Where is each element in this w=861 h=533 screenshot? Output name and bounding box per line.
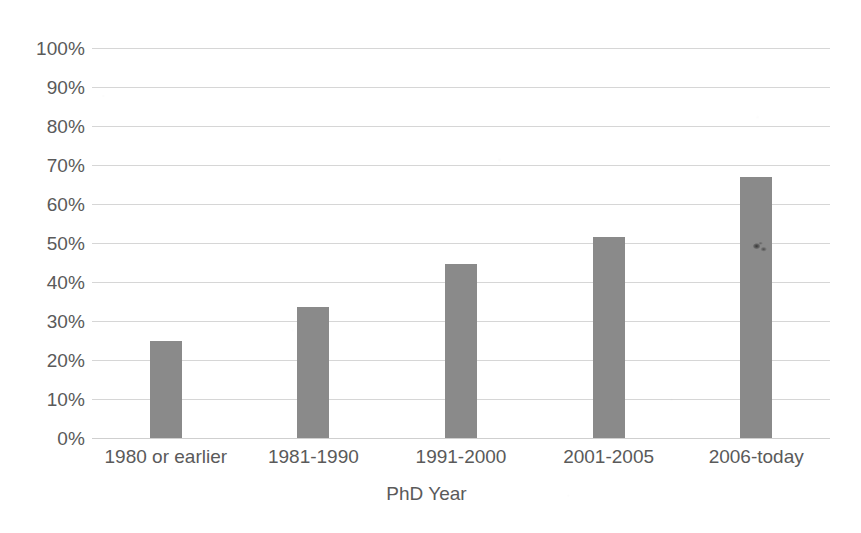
- bar: [593, 237, 625, 438]
- bar: [445, 264, 477, 438]
- x-axis-tick-label: 1980 or earlier: [105, 446, 228, 469]
- x-axis-title: PhD Year: [0, 483, 861, 506]
- x-axis-title-label: PhD Year: [386, 483, 466, 506]
- axis-baseline: [92, 438, 830, 439]
- y-axis-tick-label: 80%: [0, 117, 85, 136]
- x-axis-tick-labels: 1980 or earlier1981-19901991-20002001-20…: [0, 446, 861, 474]
- bars-layer: [92, 48, 830, 438]
- x-axis-tick-label: 1991-2000: [416, 446, 507, 469]
- bar: [740, 177, 772, 438]
- y-axis-tick-label: 70%: [0, 156, 85, 175]
- y-axis-tick-label: 90%: [0, 78, 85, 97]
- bar: [297, 307, 329, 438]
- plot-area: [92, 48, 830, 438]
- y-axis-tick-label: 10%: [0, 390, 85, 409]
- x-axis-tick-label: 1981-1990: [268, 446, 359, 469]
- x-axis-tick-label: 2001-2005: [563, 446, 654, 469]
- y-axis-tick-label: 100%: [0, 39, 85, 58]
- bar: [150, 341, 182, 439]
- y-axis-tick-label: 50%: [0, 234, 85, 253]
- x-axis-tick-label: 2006-today: [709, 446, 804, 469]
- y-axis-tick-label: 40%: [0, 273, 85, 292]
- y-axis-tick-label: 20%: [0, 351, 85, 370]
- y-axis-tick-label: 30%: [0, 312, 85, 331]
- y-axis-tick-label: 0%: [0, 429, 85, 448]
- bar-chart: 0%10%20%30%40%50%60%70%80%90%100% 1980 o…: [0, 0, 861, 533]
- y-axis-tick-label: 60%: [0, 195, 85, 214]
